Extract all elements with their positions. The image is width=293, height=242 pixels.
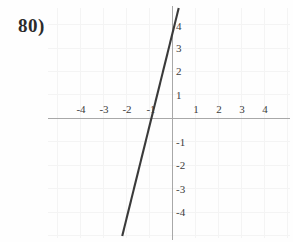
x-tick-label-neg2: -2 bbox=[122, 104, 131, 115]
plotted-line-group bbox=[122, 8, 179, 236]
coordinate-plane-svg bbox=[0, 0, 293, 242]
y-tick-label-neg2: -2 bbox=[176, 160, 185, 171]
x-tick-label-2: 2 bbox=[216, 104, 222, 115]
x-tick-label-3: 3 bbox=[239, 104, 245, 115]
graph-figure: 80) bbox=[0, 0, 293, 242]
x-tick-label-neg4: -4 bbox=[76, 104, 85, 115]
y-tick-label-1: 1 bbox=[176, 90, 182, 101]
y-tick-label-4: 4 bbox=[176, 21, 182, 32]
plotted-line bbox=[122, 8, 179, 236]
x-tick-label-neg3: -3 bbox=[99, 104, 108, 115]
y-tick-label-neg3: -3 bbox=[176, 184, 185, 195]
y-tick-label-3: 3 bbox=[176, 43, 182, 54]
gridlines bbox=[48, 8, 290, 238]
coordinate-plane bbox=[0, 0, 293, 242]
y-tick-label-2: 2 bbox=[176, 66, 182, 77]
axes bbox=[48, 6, 290, 240]
x-tick-label-4: 4 bbox=[262, 104, 268, 115]
y-tick-label-neg1: -1 bbox=[176, 137, 185, 148]
x-tick-label-1: 1 bbox=[193, 104, 199, 115]
x-tick-label-neg1: -1 bbox=[146, 104, 155, 115]
y-tick-label-neg4: -4 bbox=[176, 207, 185, 218]
